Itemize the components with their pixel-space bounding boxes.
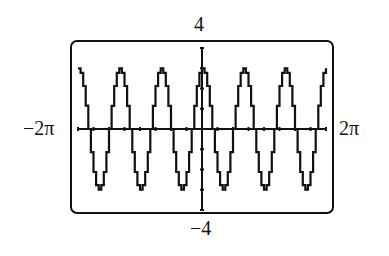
graph-screen [0,0,389,256]
